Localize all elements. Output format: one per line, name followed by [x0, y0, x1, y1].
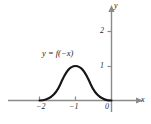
x-axis-label: x [141, 96, 145, 104]
curve-equation-label: y = f(−x) [42, 49, 73, 58]
function-curve [40, 66, 112, 101]
x-tick-label-neg2: −2 [36, 103, 45, 111]
y-axis-label: y [114, 2, 118, 10]
y-tick-label-one: 1 [100, 62, 104, 70]
function-graph-figure: y x y = f(−x) −2 −1 0 1 2 [0, 0, 151, 124]
x-tick-label-neg1: −1 [69, 103, 78, 111]
y-tick-label-two: 2 [100, 27, 104, 35]
x-tick-label-zero: 0 [105, 103, 109, 111]
